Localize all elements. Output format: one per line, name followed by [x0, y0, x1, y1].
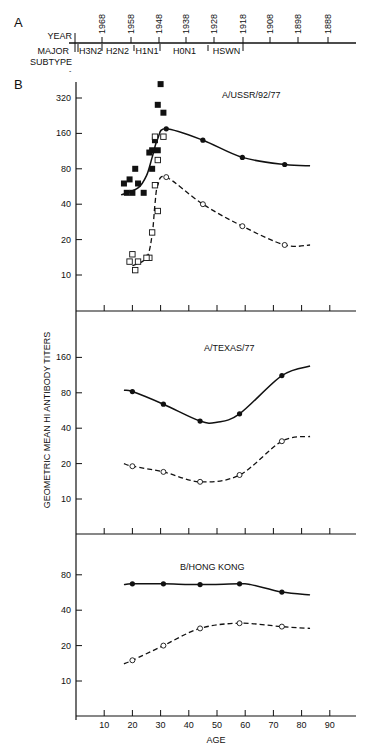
- y-tick-label: 80: [61, 388, 71, 398]
- year-tick-label: 1968: [97, 14, 107, 34]
- data-point-filled-circle: [282, 162, 287, 167]
- x-tick-label: 90: [325, 720, 335, 730]
- plot-panel-2: 16080402010A/TEXAS/77: [56, 343, 356, 534]
- data-point-open-circle: [237, 472, 242, 477]
- data-point-filled-square: [158, 81, 164, 87]
- x-tick-label: 40: [184, 720, 194, 730]
- y-tick-label: 20: [61, 641, 71, 651]
- data-point-open-circle: [130, 658, 135, 663]
- year-tick-label: 1888: [323, 14, 333, 34]
- y-tick-label: 20: [61, 235, 71, 245]
- y-tick-label: 10: [61, 494, 71, 504]
- y-tick-label: 80: [61, 164, 71, 174]
- data-point-filled-square: [149, 166, 155, 172]
- x-tick-label: 20: [127, 720, 137, 730]
- year-tick-label: 1938: [181, 14, 191, 34]
- subtype-label: H2N2: [106, 46, 129, 56]
- data-point-open-circle: [200, 202, 205, 207]
- series-title: B/HONG KONG: [180, 562, 245, 572]
- data-point-filled-circle: [164, 126, 169, 131]
- year-label: YEAR: [47, 31, 72, 41]
- data-point-filled-circle: [279, 373, 284, 378]
- panel-a: A YEAR MAJOR SUBTYPE - 19681958194819381…: [14, 14, 356, 74]
- data-point-filled-square: [146, 150, 152, 156]
- data-point-filled-square: [135, 180, 141, 186]
- series-title: A/TEXAS/77: [204, 343, 255, 353]
- dash-mark: -: [69, 67, 72, 74]
- y-tick-label: 10: [61, 270, 71, 280]
- data-point-filled-square: [124, 190, 130, 196]
- panel-b: B GEOMETRIC MEAN HI ANTIBODY TITERS AGE …: [14, 77, 356, 745]
- y-tick-label: 40: [61, 423, 71, 433]
- subtype-label: H1N1: [135, 46, 158, 56]
- plots: 32016080402010A/USSR/92/7716080402010A/T…: [56, 81, 356, 730]
- data-point-filled-square: [141, 190, 147, 196]
- year-tick-label: 1908: [265, 14, 275, 34]
- data-point-open-circle: [279, 439, 284, 444]
- y-tick-label: 40: [61, 199, 71, 209]
- data-point-open-circle: [164, 175, 169, 180]
- data-point-open-square: [127, 259, 132, 264]
- data-point-open-circle: [161, 643, 166, 648]
- year-ticks: 196819581948193819281918190818981888: [97, 14, 333, 43]
- year-tick-label: 1948: [154, 14, 164, 34]
- data-point-filled-circle: [130, 581, 135, 586]
- y-tick-label: 320: [56, 93, 71, 103]
- data-point-open-circle: [237, 621, 242, 626]
- subtype-label-subtype: SUBTYPE: [30, 57, 72, 67]
- data-point-filled-circle: [240, 155, 245, 160]
- data-point-open-square: [152, 183, 157, 188]
- series-title: A/USSR/92/77: [222, 90, 281, 100]
- subtype-label: H0N1: [173, 46, 196, 56]
- data-point-open-circle: [198, 479, 203, 484]
- y-tick-label: 160: [56, 128, 71, 138]
- y-axis-label: GEOMETRIC MEAN HI ANTIBODY TITERS: [42, 332, 52, 509]
- subtype-labels: H3N2H2N2H1N1H0N1HSWN: [78, 43, 243, 56]
- data-point-open-square: [149, 230, 154, 235]
- x-tick-label: 80: [297, 720, 307, 730]
- data-point-filled-square: [121, 180, 127, 186]
- data-point-open-square: [130, 252, 135, 257]
- data-point-filled-square: [160, 110, 166, 116]
- data-point-filled-square: [132, 166, 138, 172]
- y-tick-label: 80: [61, 570, 71, 580]
- data-point-open-square: [135, 259, 140, 264]
- year-tick-label: 1898: [293, 14, 303, 34]
- subtype-label: H3N2: [79, 46, 102, 56]
- data-point-filled-circle: [161, 581, 166, 586]
- x-tick-label: 60: [240, 720, 250, 730]
- y-tick-label: 20: [61, 459, 71, 469]
- data-point-open-square: [155, 208, 160, 213]
- x-tick-label: 50: [212, 720, 222, 730]
- solid-curve: [121, 129, 310, 195]
- figure-canvas: A YEAR MAJOR SUBTYPE - 19681958194819381…: [0, 0, 371, 752]
- panel-b-letter: B: [14, 77, 23, 92]
- data-point-open-circle: [279, 624, 284, 629]
- subtype-label: HSWN: [213, 46, 241, 56]
- data-point-filled-circle: [237, 581, 242, 586]
- data-point-filled-circle: [200, 138, 205, 143]
- data-point-open-square: [152, 134, 157, 139]
- year-tick-label: 1928: [209, 14, 219, 34]
- data-point-filled-circle: [130, 389, 135, 394]
- data-point-filled-square: [129, 190, 135, 196]
- y-tick-label: 160: [56, 352, 71, 362]
- x-tick-label: 30: [156, 720, 166, 730]
- panel-a-letter: A: [14, 15, 23, 30]
- year-tick-label: 1958: [126, 14, 136, 34]
- data-point-filled-circle: [279, 590, 284, 595]
- x-axis-label: AGE: [206, 735, 225, 745]
- data-point-open-circle: [130, 464, 135, 469]
- data-point-filled-circle: [197, 582, 202, 587]
- x-tick-label: 70: [268, 720, 278, 730]
- y-tick-label: 40: [61, 605, 71, 615]
- data-point-open-square: [133, 267, 138, 272]
- data-point-open-square: [155, 157, 160, 162]
- subtype-label-major: MAJOR: [38, 46, 70, 56]
- x-tick-label: 10: [99, 720, 109, 730]
- data-point-filled-circle: [197, 418, 202, 423]
- data-point-open-circle: [161, 469, 166, 474]
- plot-panel-1: 32016080402010A/USSR/92/77: [56, 81, 356, 311]
- data-point-open-square: [144, 255, 149, 260]
- data-point-filled-square: [155, 147, 161, 153]
